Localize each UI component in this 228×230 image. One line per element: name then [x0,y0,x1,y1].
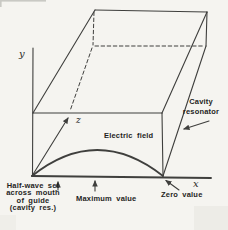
x-axis-label: x [193,179,199,189]
electric-field-curve [32,150,163,176]
hidden-back-left-edge [93,12,94,45]
scan-artifact [0,215,16,230]
z-axis-arrow [32,118,68,176]
cavity-resonator-pointer-arrow [184,121,209,129]
maximum-value-label: Maximum value [76,195,136,203]
scan-artifact [0,0,46,2]
cavity-resonator-label: Cavity resonator [183,97,219,116]
zero-value-label: Zero value [161,191,203,199]
cavity-resonator-figure: y z x Electric field Cavity resonator Ha… [0,0,228,230]
cavity-resonator-line1: Cavity [183,97,219,107]
zero-value-pointer-arrow [166,181,179,191]
box-front-right-edge [162,113,163,176]
electric-field-label: Electric field [104,132,153,140]
box-top-left-depth-edge [33,10,95,113]
y-axis-label: y [19,49,25,59]
box-top-back-edge [95,10,207,12]
scan-artifact [194,206,228,230]
y-axis-line [33,48,34,176]
x-axis-line [32,176,211,178]
z-axis-label: z [76,116,81,125]
cavity-resonator-line2: resonator [183,107,219,117]
box-back-right-vertical-edge [206,12,207,46]
half-wave-label: Half-wave set across mouth of guide (cav… [6,182,60,212]
hidden-bottom-left-depth-edge [70,48,92,111]
half-wave-line4: (cavity res.) [6,204,60,211]
scan-artifact [0,0,2,7]
